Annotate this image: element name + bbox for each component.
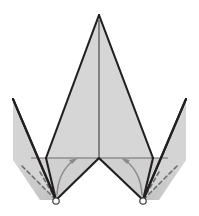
left-pivot-marker — [53, 198, 59, 204]
diagram-root — [0, 0, 199, 216]
right-pivot-marker — [140, 198, 146, 204]
figure-svg — [0, 0, 199, 216]
pivot-markers — [53, 198, 146, 204]
